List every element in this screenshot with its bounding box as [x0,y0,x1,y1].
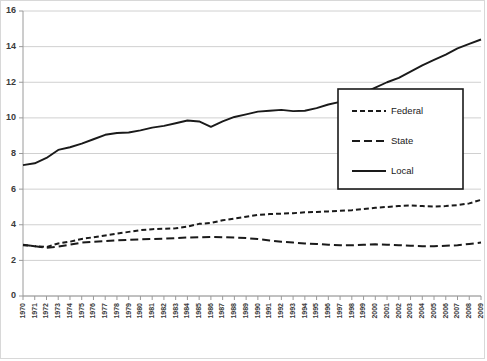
x-tick-label: 1989 [242,303,249,319]
x-tick-label: 2009 [477,303,484,319]
x-tick-label: 1983 [172,303,179,319]
x-tick-label: 1995 [312,303,319,319]
x-tick-label: 1977 [101,303,108,319]
x-tick-label: 1987 [218,303,225,319]
legend-label-local: Local [391,165,414,176]
x-tick-label: 2003 [406,303,413,319]
x-axis: 1970197119721973197419751976197719781979… [19,296,484,319]
y-tick-label: 4 [11,219,16,229]
x-tick-label: 1984 [183,303,190,319]
x-tick-label: 1988 [230,303,237,319]
x-tick-label: 1971 [31,303,38,319]
x-tick-label: 1975 [78,303,85,319]
x-tick-label: 1998 [348,303,355,319]
y-tick-label: 14 [6,41,16,51]
x-tick-label: 1970 [19,303,26,319]
x-tick-label: 1972 [42,303,49,319]
x-tick-label: 1974 [66,303,73,319]
x-tick-label: 1996 [324,303,331,319]
chart-plot-area: 0246810121416 19701971197219731974197519… [1,1,486,360]
y-tick-label: 0 [11,290,16,300]
x-tick-label: 2006 [442,303,449,319]
y-axis: 0246810121416 [6,5,23,300]
series-line-federal [23,200,481,247]
legend-label-state: State [391,135,413,146]
x-tick-label: 2004 [418,303,425,319]
x-tick-label: 1978 [113,303,120,319]
x-tick-label: 1979 [125,303,132,319]
line-chart: 0246810121416 19701971197219731974197519… [0,0,485,359]
x-tick-label: 1973 [54,303,61,319]
x-tick-label: 1992 [277,303,284,319]
y-tick-label: 2 [11,255,16,265]
x-tick-label: 2001 [383,303,390,319]
x-tick-label: 1976 [89,303,96,319]
legend-label-federal: Federal [391,105,423,116]
y-tick-label: 10 [6,112,16,122]
x-tick-label: 2005 [430,303,437,319]
x-tick-label: 1991 [265,303,272,319]
x-tick-label: 1993 [289,303,296,319]
y-tick-label: 8 [11,148,16,158]
x-tick-label: 2008 [465,303,472,319]
x-tick-label: 2007 [453,303,460,319]
x-tick-label: 2002 [395,303,402,319]
chart-legend: FederalStateLocal [338,89,463,189]
y-tick-label: 6 [11,184,16,194]
x-tick-label: 1980 [136,303,143,319]
x-tick-label: 1986 [207,303,214,319]
x-tick-label: 1982 [160,303,167,319]
x-tick-label: 1985 [195,303,202,319]
x-tick-label: 2000 [371,303,378,319]
series-line-state [23,237,481,248]
x-tick-label: 1994 [301,303,308,319]
y-tick-label: 12 [6,77,16,87]
x-tick-label: 1999 [359,303,366,319]
x-tick-label: 1981 [148,303,155,319]
x-tick-label: 1997 [336,303,343,319]
y-tick-label: 16 [6,5,16,15]
x-tick-label: 1990 [254,303,261,319]
